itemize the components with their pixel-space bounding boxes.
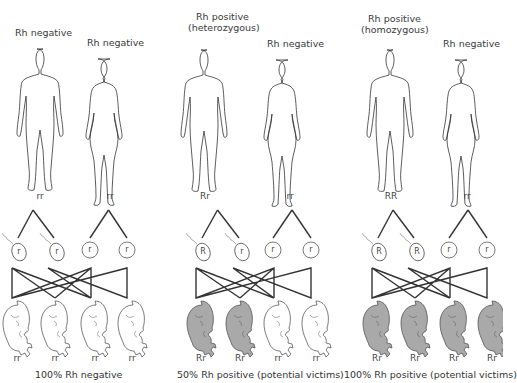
panel-3-figures [367, 50, 479, 206]
panel-3-mother-genotype: rr [452, 191, 482, 201]
panel-1-caption: 100% Rh negative [35, 369, 122, 380]
panel-3-sperm-2: R [410, 247, 424, 257]
panel-2-father-label: Rh positive [196, 11, 249, 22]
panel-1-father-genotype: rr [25, 191, 55, 201]
panel-2-sperm-2: r [235, 247, 249, 257]
panel-2-figures [181, 50, 300, 206]
panel-2-caption: 50% Rh positive (potential victims) [177, 369, 344, 380]
panel-2-offspring-3-genotype: rr [263, 353, 293, 363]
panel-1-egg-2: r [120, 245, 134, 255]
panel-1-mother-label: Rh negative [87, 37, 144, 48]
panel-2-mother-genotype: rr [275, 191, 305, 201]
panel-1-offspring-3-genotype: rr [80, 353, 110, 363]
panel-1-egg-1: r [83, 245, 97, 255]
panel-2-mother-label: Rh negative [267, 38, 324, 49]
panel-3-mother-label: Rh negative [443, 38, 500, 49]
panel-2-offspring-4-genotype: rr [301, 353, 331, 363]
panel-2-sperm-1: R [196, 247, 210, 257]
panel-1-offspring-2-genotype: rr [40, 353, 70, 363]
panel-3-offspring-2-genotype: Rr [400, 353, 430, 363]
panel-3-offspring-4-genotype: Rr [477, 353, 507, 363]
panel-1-offspring-4-genotype: rr [117, 353, 147, 363]
panel-2-egg-2: r [304, 245, 318, 255]
panel-2-egg-1: r [266, 245, 280, 255]
panel-2-offspring-2-genotype: Rr [225, 353, 255, 363]
panel-2-father-genotype: Rr [190, 191, 220, 201]
panel-3-caption: 100% Rh positive (potential victims) [344, 369, 517, 380]
panel-1-sperm-2: r [50, 247, 64, 257]
panel-3-sperm-1: R [372, 247, 386, 257]
panel-2-offspring-1-genotype: Rr [186, 353, 216, 363]
panel-3-offspring-1-genotype: Rr [362, 353, 392, 363]
panel-1-sperm-1: r [12, 247, 26, 257]
panel-3-father-sublabel: (homozygous) [361, 24, 429, 35]
panel-3-egg-1: r [442, 245, 456, 255]
panel-1-offspring-1-genotype: rr [2, 353, 32, 363]
panel-3-egg-2: r [480, 245, 494, 255]
panel-3-father-label: Rh positive [368, 13, 421, 24]
panel-2-father-sublabel: (heterozygous) [188, 22, 260, 33]
panel-1-figures [17, 49, 122, 205]
panel-3-father-genotype: RR [376, 191, 406, 201]
panel-1-mother-genotype: rr [95, 191, 125, 201]
panel-3-offspring-3-genotype: Rr [439, 353, 469, 363]
panel-1-father-label: Rh negative [15, 27, 72, 38]
